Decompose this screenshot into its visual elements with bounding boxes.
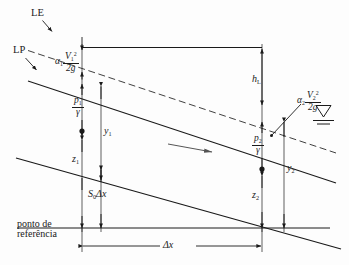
- lp-leader: [26, 58, 37, 70]
- velocity-head-2-label: α2V222g: [297, 91, 321, 112]
- pressure-head-1-label: p1γ: [72, 96, 84, 117]
- elevation-1-label: z1: [72, 154, 79, 165]
- flow-direction-arrow: [168, 144, 212, 152]
- velocity-head-1-label: α1V122g: [55, 52, 79, 73]
- datum-label: ponto de referência: [17, 219, 57, 239]
- depth-1-label: y1: [104, 126, 112, 137]
- label-le: LE: [31, 8, 44, 19]
- elevation-2-label: z2: [252, 190, 259, 201]
- label-lp: LP: [13, 45, 25, 56]
- bed-drop-label: S0Δx: [88, 189, 106, 200]
- pressure-head-2-label: p2γ: [252, 134, 264, 155]
- head-loss-label: hL: [252, 74, 261, 85]
- le-leader: [43, 21, 53, 32]
- open-channel-energy-diagram: LE LP α1V122g α2V222g hL p1γ p2γ y1 y2 z…: [0, 0, 349, 265]
- pressure-point-1: [79, 128, 84, 133]
- pressure-point-2: [259, 166, 264, 171]
- alpha2-leader-dot: [270, 134, 273, 137]
- datum-label-line2: referência: [17, 228, 57, 239]
- reach-length-label: Δx: [163, 240, 173, 250]
- depth-2-label: y2: [287, 163, 295, 174]
